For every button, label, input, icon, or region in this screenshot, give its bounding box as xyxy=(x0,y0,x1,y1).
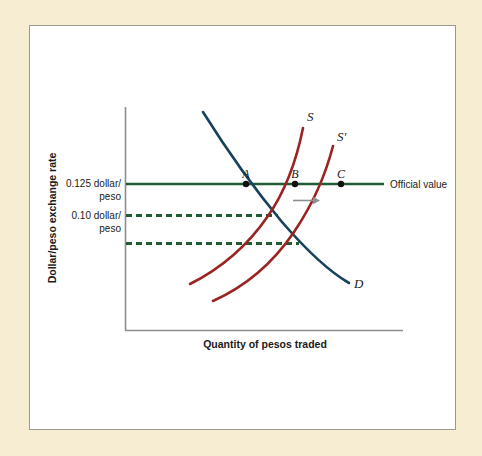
y-tick-0125-line2: peso xyxy=(99,191,121,202)
figure-root: A B C S S′ D Official value 0.125 dollar… xyxy=(0,0,482,456)
x-axis-title: Quantity of pesos traded xyxy=(203,338,327,350)
official-value-label: Official value xyxy=(390,179,448,190)
supply-shift-arrow-icon xyxy=(293,197,320,204)
chart-axes xyxy=(125,107,403,331)
y-axis-title: Dollar/peso exchange rate xyxy=(46,152,58,283)
y-tick-010-line1: 0.10 dollar/ xyxy=(72,210,122,221)
y-tick-010-line2: peso xyxy=(99,223,121,234)
y-tick-label-0125: 0.125 dollar/ peso xyxy=(66,178,121,202)
market-rate-dashed-lines xyxy=(126,216,299,244)
point-label-a: A xyxy=(241,167,250,181)
curve-label-d: D xyxy=(353,276,364,291)
point-marker-c xyxy=(338,181,344,187)
point-marker-b xyxy=(292,181,298,187)
supply-curve-s xyxy=(190,128,303,284)
y-tick-0125-line1: 0.125 dollar/ xyxy=(66,178,121,189)
demand-curve xyxy=(203,112,349,283)
point-label-b: B xyxy=(291,167,299,181)
supply-curve-s-prime xyxy=(213,146,333,301)
curve-label-s-prime: S′ xyxy=(337,129,347,144)
point-label-c: C xyxy=(337,167,346,181)
exchange-rate-chart: A B C S S′ D Official value 0.125 dollar… xyxy=(0,0,482,456)
y-tick-label-010: 0.10 dollar/ peso xyxy=(72,210,122,234)
point-marker-a xyxy=(243,181,249,187)
curve-label-s: S xyxy=(307,109,314,124)
